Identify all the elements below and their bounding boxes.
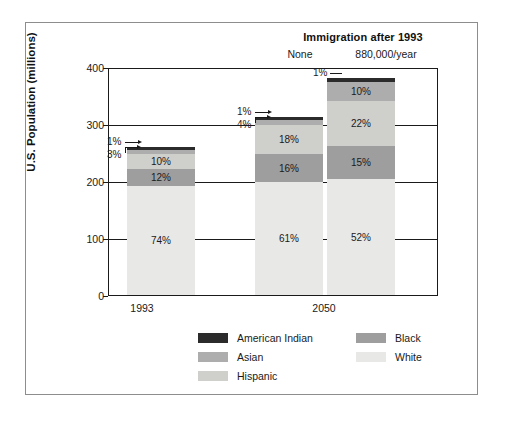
callout-2050none-asian: 4%	[237, 119, 251, 130]
legend-swatch-white	[356, 352, 386, 362]
callout-1993-american-indian: 1%	[107, 136, 121, 147]
legend-column-left: American Indian Asian Hispanic	[198, 328, 328, 385]
legend-item-white[interactable]: White	[356, 347, 446, 366]
segment-label-2050-880k-asian: 10%	[351, 86, 371, 97]
segment-label-2050none-hispanic: 18%	[279, 134, 299, 145]
bar-2050-880k[interactable]: 52% 15% 22% 10%	[327, 79, 395, 295]
segment-label-2050none-white: 61%	[279, 233, 299, 244]
y-tick-100: 100	[62, 233, 104, 245]
segment-2050none-asian[interactable]	[255, 120, 323, 125]
legend-label-white: White	[395, 351, 422, 363]
y-axis-label: U.S. Population (millions)	[25, 0, 37, 212]
segment-label-1993-hispanic: 10%	[151, 156, 171, 167]
segment-1993-asian[interactable]	[127, 150, 195, 154]
callout-2050none-american-indian: 1%	[237, 106, 251, 117]
segment-2050-880k-american-indian[interactable]	[327, 78, 395, 82]
column-header-none: None	[272, 48, 328, 60]
legend-label-hispanic: Hispanic	[237, 370, 277, 382]
segment-2050-880k-black[interactable]: 15%	[327, 146, 395, 179]
legend-swatch-hispanic	[198, 371, 228, 381]
bar-2050-none[interactable]: 61% 16% 18%	[255, 118, 323, 295]
y-tickmark-0	[103, 296, 108, 297]
x-tick-1993: 1993	[108, 302, 176, 314]
segment-2050none-black[interactable]: 16%	[255, 154, 323, 182]
segment-1993-black[interactable]: 12%	[127, 169, 195, 186]
callout-arrow-2050none-asian	[267, 115, 271, 119]
segment-label-1993-white: 74%	[151, 235, 171, 246]
figure-canvas: Immigration after 1993 None 880,000/year…	[0, 0, 506, 422]
segment-label-2050-880k-black: 15%	[351, 157, 371, 168]
legend-label-black: Black	[395, 332, 421, 344]
segment-2050none-hispanic[interactable]: 18%	[255, 125, 323, 154]
segment-2050-880k-white[interactable]: 52%	[327, 179, 395, 295]
chart-title: Immigration after 1993	[278, 31, 448, 43]
segment-1993-white[interactable]: 74%	[127, 186, 195, 295]
legend-column-right: Black White	[356, 328, 446, 366]
legend-swatch-asian	[198, 352, 228, 362]
column-header-immigration-rate: 880,000/year	[334, 48, 438, 60]
legend-item-black[interactable]: Black	[356, 328, 446, 347]
legend-label-asian: Asian	[237, 351, 263, 363]
legend-item-asian[interactable]: Asian	[198, 347, 328, 366]
callout-arrow-1993-asian	[137, 145, 141, 149]
segment-1993-hispanic[interactable]: 10%	[127, 154, 195, 169]
segment-label-2050none-black: 16%	[279, 163, 299, 174]
callout-1993-asian: 3%	[107, 149, 121, 160]
segment-label-1993-black: 12%	[151, 172, 171, 183]
legend-item-american-indian[interactable]: American Indian	[198, 328, 328, 347]
segment-2050none-white[interactable]: 61%	[255, 182, 323, 295]
x-tick-2050: 2050	[290, 302, 358, 314]
segment-label-2050-880k-white: 52%	[351, 232, 371, 243]
legend-swatch-american-indian	[198, 333, 228, 343]
legend-label-american-indian: American Indian	[237, 332, 313, 344]
callout-2050-880k-american-indian: 1%	[313, 67, 327, 78]
y-tick-200: 200	[62, 176, 104, 188]
segment-label-2050-880k-hispanic: 22%	[351, 118, 371, 129]
legend-item-hispanic[interactable]: Hispanic	[198, 366, 328, 385]
y-tick-0: 0	[62, 290, 104, 302]
segment-2050-880k-hispanic[interactable]: 22%	[327, 101, 395, 146]
callout-arrow-1993-amind	[138, 140, 142, 144]
callout-arrow-2050none-amind	[268, 110, 272, 114]
callout-leader-2050-880k-amind	[330, 73, 342, 74]
segment-2050-880k-asian[interactable]: 10%	[327, 82, 395, 101]
callout-leader-2050none-amind	[255, 112, 269, 113]
legend-swatch-black	[356, 333, 386, 343]
y-tick-400: 400	[62, 62, 104, 74]
bar-1993[interactable]: 74% 12% 10%	[127, 148, 195, 295]
y-tick-300: 300	[62, 119, 104, 131]
callout-leader-1993-amind	[125, 142, 139, 143]
plot-area: 74% 12% 10% 61% 16% 18%	[108, 68, 438, 296]
